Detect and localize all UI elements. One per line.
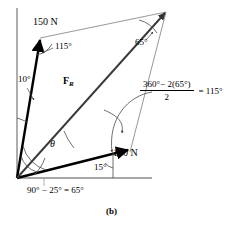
fraction-115deg: 360°− 2(65°) 2 = 115° <box>140 79 223 102</box>
fraction-denominator: 2 <box>165 91 170 102</box>
label-theta: θ <box>50 139 55 149</box>
label-150n: 150 N <box>33 17 58 27</box>
label-100n: 100 N <box>113 148 138 158</box>
arc-theta <box>64 131 74 148</box>
fraction-result: = 115° <box>194 86 223 96</box>
fraction-stack: 360°− 2(65°) 2 <box>140 79 194 102</box>
vector-100n <box>17 150 128 178</box>
label-10deg: 10° <box>18 75 31 84</box>
label-bottom-equation: 90° − 25° = 65° <box>27 186 84 195</box>
label-resultant-fr: FR <box>63 76 74 88</box>
leader-115deg-upper <box>42 48 53 53</box>
label-15deg: 15° <box>94 163 107 172</box>
label-65deg-apex: 65° <box>135 38 148 47</box>
figure-caption: (b) <box>106 206 117 216</box>
fr-subscript: R <box>69 80 74 88</box>
fraction-numerator: 360°− 2(65°) <box>140 79 194 90</box>
label-115deg-upper: 115° <box>55 42 72 51</box>
